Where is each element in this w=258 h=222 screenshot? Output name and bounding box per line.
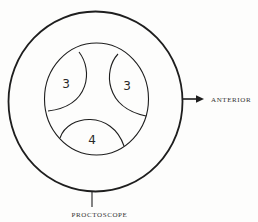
proctoscope-diagram: 3 3 4 ANTERIOR PROCTOSCOPE <box>0 0 258 222</box>
anterior-arrow-icon <box>183 95 205 103</box>
anterior-label: ANTERIOR <box>211 96 251 104</box>
inner-circle <box>45 43 149 155</box>
lobe-number-upper-left: 3 <box>62 77 70 91</box>
proctoscope-label: PROCTOSCOPE <box>72 211 128 219</box>
lobe-number-bottom: 4 <box>88 133 96 147</box>
diagram-svg: 3 3 4 ANTERIOR PROCTOSCOPE <box>0 0 258 222</box>
outer-circle <box>9 12 183 192</box>
lobe-number-upper-right: 3 <box>123 79 131 93</box>
